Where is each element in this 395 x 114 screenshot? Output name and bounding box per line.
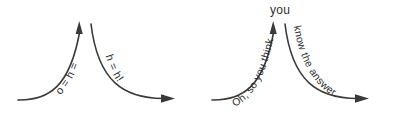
up-arrow-icon bbox=[76, 21, 83, 34]
left-ascending-label: o = h = bbox=[53, 61, 81, 97]
right-arrow-icon bbox=[355, 94, 369, 103]
figure-canvas: o = h = h = h! Oh, so you think you bbox=[0, 0, 395, 114]
left-descending-curve bbox=[91, 24, 163, 99]
up-arrow-icon bbox=[270, 21, 277, 34]
left-ascending-label-text: o = h = bbox=[53, 61, 81, 97]
figure-svg: o = h = h = h! Oh, so you think you bbox=[0, 0, 395, 114]
left-ascending-arrow bbox=[18, 21, 83, 100]
left-panel: o = h = h = h! bbox=[18, 21, 175, 103]
right-panel: Oh, so you think you know the answer. bbox=[212, 3, 369, 109]
left-descending-label: h = h! bbox=[104, 53, 127, 84]
right-arrow-icon bbox=[161, 94, 175, 103]
right-ascending-label-text: Oh, so you think bbox=[230, 36, 276, 108]
right-apex-label: you bbox=[270, 3, 290, 17]
right-ascending-label: Oh, so you think bbox=[230, 36, 276, 108]
left-descending-label-text: h = h! bbox=[104, 53, 127, 84]
left-descending-arrow bbox=[91, 24, 175, 103]
